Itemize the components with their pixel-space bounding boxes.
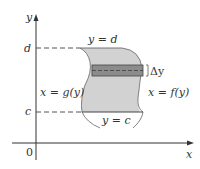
region-diagram: y x 0 d c y = d y = c x = g(y) x = f(y) … (0, 0, 200, 169)
y-axis-label: y (25, 11, 33, 24)
right-boundary-label: x = f(y) (148, 86, 189, 99)
x-axis-label: x (186, 148, 193, 161)
shaded-region (80, 48, 143, 112)
c-label: c (25, 105, 31, 118)
delta-y-bracket (146, 65, 148, 76)
y-axis-arrow (34, 14, 39, 21)
origin-label: 0 (26, 146, 33, 159)
d-label: d (24, 42, 31, 55)
delta-y-label: Δy (150, 65, 165, 78)
left-boundary-label: x = g(y) (40, 86, 84, 99)
top-boundary-label: y = d (87, 33, 117, 46)
bottom-boundary-label: y = c (101, 114, 131, 127)
x-axis-arrow (187, 141, 194, 146)
